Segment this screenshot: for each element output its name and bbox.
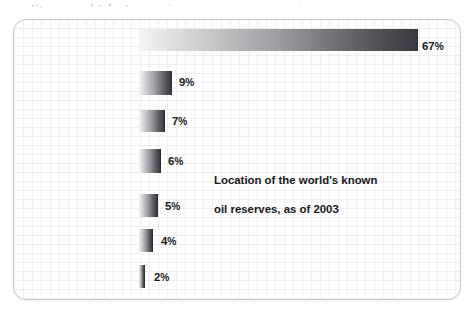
bar-value-percent-sign: % (174, 156, 183, 167)
bar-value-percent-sign: % (167, 236, 176, 247)
bar-value-percent-sign: % (435, 41, 444, 52)
bar-western-europe (139, 265, 145, 288)
bar-value-central-south-america: 9% (179, 76, 194, 88)
bar-value-asia-oceania: 4% (161, 235, 176, 247)
chart-caption: Location of the world's known oil reserv… (214, 158, 429, 216)
chart-panel: Middle East 67% Central and South Americ… (13, 19, 461, 300)
bar-value-percent-sign: % (178, 116, 187, 127)
scan-artifact-strip (0, 0, 474, 14)
bar-central-south-america (139, 71, 172, 95)
chart-caption-line1: Location of the world's known (214, 174, 377, 186)
bar-value-western-europe: 2% (154, 271, 169, 283)
bar-middle-east (139, 29, 418, 51)
bar-eastern-europe-ussr (139, 149, 161, 173)
bar-africa (139, 110, 165, 132)
bar-value-percent-sign: % (160, 272, 169, 283)
bar-value-north-america: 5% (165, 200, 180, 212)
bar-value-eastern-europe-ussr: 6% (168, 155, 183, 167)
bar-value-number: 67 (422, 40, 435, 52)
bar-value-percent-sign: % (185, 77, 194, 88)
bar-value-middle-east: 67% (422, 40, 444, 52)
bar-asia-oceania (139, 229, 153, 252)
bar-value-percent-sign: % (171, 201, 180, 212)
bar-value-africa: 7% (172, 115, 187, 127)
bar-north-america (139, 194, 158, 217)
chart-caption-line2: oil reserves, as of 2003 (214, 203, 339, 215)
